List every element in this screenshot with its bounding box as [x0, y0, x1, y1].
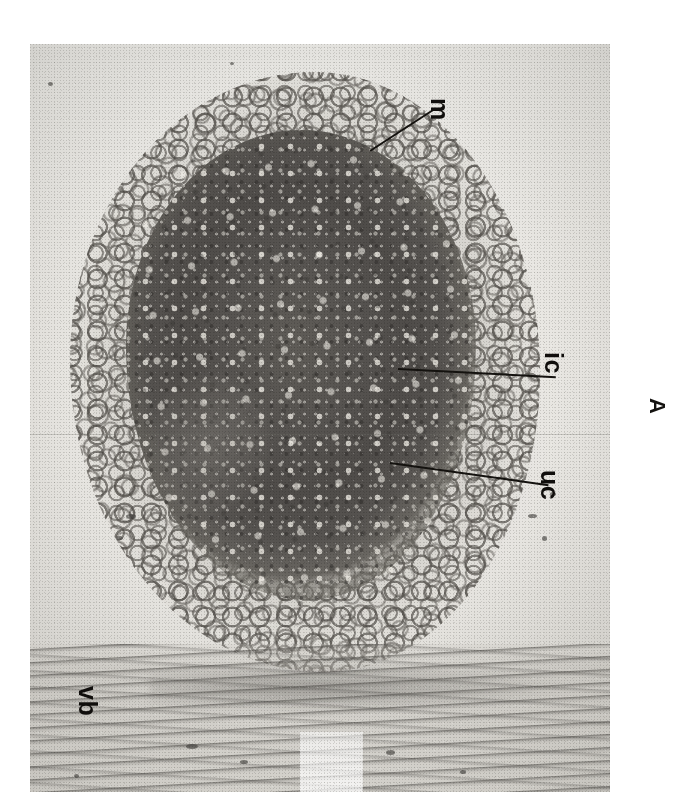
figure-page: m ic uc vb A [0, 0, 700, 812]
film-grain-coarse [30, 44, 610, 792]
annotation-label-ic: ic [541, 352, 566, 374]
annotation-label-m: m [427, 98, 452, 121]
annotation-label-uc: uc [537, 470, 562, 500]
micrograph-plate [30, 44, 610, 792]
annotation-label-vb: vb [75, 686, 100, 716]
panel-letter-a: A [646, 398, 668, 414]
